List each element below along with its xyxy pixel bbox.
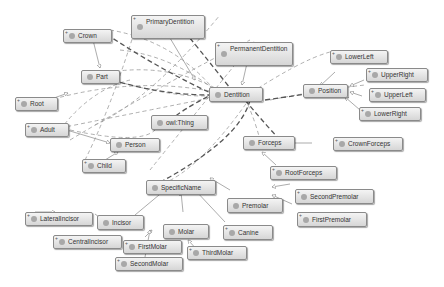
- expand-icon[interactable]: +: [297, 190, 300, 195]
- class-icon: [157, 120, 163, 126]
- node-central-incisor[interactable]: +CentralIncisor: [53, 235, 122, 249]
- node-person[interactable]: Person: [110, 138, 160, 152]
- class-icon: [249, 140, 255, 146]
- node-label: Premolar: [242, 202, 268, 210]
- node-label: LowerRight: [374, 110, 407, 118]
- class-icon: [87, 74, 93, 80]
- node-label: Adult: [40, 126, 55, 134]
- node-root[interactable]: +Root: [15, 97, 58, 111]
- class-icon: [375, 92, 381, 98]
- node-label: LateralIncisor: [40, 215, 79, 223]
- expand-icon[interactable]: +: [217, 43, 220, 48]
- expand-icon[interactable]: +: [361, 108, 364, 113]
- node-second-molar[interactable]: +SecondMolar: [115, 257, 183, 271]
- node-position[interactable]: Position: [303, 84, 348, 98]
- expand-icon[interactable]: +: [368, 69, 371, 74]
- node-crown-forceps[interactable]: +CrownForceps: [333, 137, 403, 151]
- expand-icon[interactable]: +: [27, 213, 30, 218]
- expand-icon[interactable]: +: [299, 213, 302, 218]
- node-upper-left[interactable]: +UpperLeft: [369, 88, 426, 102]
- expand-icon[interactable]: +: [225, 226, 228, 231]
- class-icon: [365, 111, 371, 117]
- node-label: ThirdMolar: [202, 249, 233, 257]
- class-icon: [116, 142, 122, 148]
- expand-icon[interactable]: +: [65, 30, 68, 35]
- node-permanent-dentition[interactable]: +PermanentDentition: [215, 42, 293, 66]
- node-label: LowerLeft: [345, 53, 374, 61]
- node-label: Canine: [238, 229, 259, 237]
- expand-icon[interactable]: +: [27, 124, 30, 129]
- ontology-graph-canvas[interactable]: +Crown +PrimaryDentition +PermanentDenti…: [0, 0, 444, 287]
- node-third-molar[interactable]: +ThirdMolar: [187, 246, 247, 260]
- node-upper-right[interactable]: +UpperRight: [366, 68, 428, 82]
- class-icon: [276, 170, 282, 176]
- node-crown[interactable]: +Crown: [63, 29, 112, 43]
- expand-icon[interactable]: +: [189, 247, 192, 252]
- class-icon: [31, 216, 37, 222]
- node-label: Molar: [178, 228, 194, 236]
- class-icon: [88, 163, 94, 169]
- expand-icon[interactable]: +: [272, 167, 275, 172]
- node-label: Incisor: [112, 219, 131, 227]
- class-icon: [193, 250, 199, 256]
- expand-icon[interactable]: +: [117, 258, 120, 263]
- expand-icon[interactable]: +: [133, 16, 136, 21]
- node-label: FirstMolar: [138, 243, 167, 251]
- class-icon: [152, 185, 158, 191]
- node-first-molar[interactable]: +FirstMolar: [123, 240, 182, 254]
- expand-icon[interactable]: +: [332, 51, 335, 56]
- node-first-premolar[interactable]: +FirstPremolar: [297, 212, 367, 227]
- class-icon: [301, 194, 307, 200]
- node-adult[interactable]: +Adult: [25, 123, 69, 137]
- class-icon: [137, 24, 143, 30]
- node-label: PrimaryDentition: [146, 18, 194, 25]
- node-label: RootForceps: [285, 169, 322, 177]
- node-label: CrownForceps: [348, 140, 390, 148]
- expand-icon[interactable]: +: [335, 138, 338, 143]
- class-icon: [339, 141, 345, 147]
- node-owl-thing[interactable]: owl:Thing: [151, 115, 208, 130]
- node-label: Person: [125, 141, 146, 149]
- class-icon: [59, 239, 65, 245]
- node-specific-name[interactable]: SpecificName: [146, 180, 216, 195]
- node-part[interactable]: Part: [81, 70, 120, 84]
- node-label: Root: [30, 100, 44, 108]
- expand-icon[interactable]: +: [84, 160, 87, 165]
- expand-icon[interactable]: +: [17, 98, 20, 103]
- node-label: Child: [97, 162, 112, 170]
- node-label: SecondMolar: [130, 260, 168, 268]
- node-label: Crown: [78, 32, 97, 40]
- class-icon: [303, 217, 309, 223]
- node-canine[interactable]: +Canine: [223, 225, 273, 240]
- node-primary-dentition[interactable]: +PrimaryDentition: [131, 15, 205, 39]
- node-premolar[interactable]: Premolar: [227, 198, 283, 213]
- class-icon: [169, 229, 175, 235]
- node-label: Forceps: [258, 139, 281, 147]
- class-icon: [69, 33, 75, 39]
- node-root-forceps[interactable]: +RootForceps: [270, 166, 337, 180]
- node-lower-left[interactable]: +LowerLeft: [330, 50, 388, 64]
- node-lower-right[interactable]: +LowerRight: [359, 107, 421, 121]
- node-label: Position: [318, 87, 341, 95]
- node-second-premolar[interactable]: +SecondPremolar: [295, 189, 374, 204]
- node-child[interactable]: +Child: [82, 159, 126, 173]
- node-label: FirstPremolar: [312, 216, 351, 224]
- node-incisor[interactable]: Incisor: [97, 215, 144, 230]
- node-lateral-incisor[interactable]: +LateralIncisor: [25, 212, 93, 226]
- class-icon: [31, 127, 37, 133]
- node-dentition[interactable]: Dentition: [209, 87, 263, 102]
- expand-icon[interactable]: +: [55, 236, 58, 241]
- class-icon: [121, 261, 127, 267]
- node-label: CentralIncisor: [68, 238, 108, 246]
- class-icon: [233, 203, 239, 209]
- node-label: owl:Thing: [166, 119, 194, 127]
- class-icon: [215, 92, 221, 98]
- node-forceps[interactable]: Forceps: [243, 136, 295, 150]
- class-icon: [309, 88, 315, 94]
- expand-icon[interactable]: +: [125, 241, 128, 246]
- node-molar[interactable]: Molar: [163, 224, 209, 239]
- expand-icon[interactable]: +: [371, 89, 374, 94]
- node-label: SecondPremolar: [310, 193, 358, 201]
- class-icon: [129, 244, 135, 250]
- node-label: UpperLeft: [384, 91, 413, 99]
